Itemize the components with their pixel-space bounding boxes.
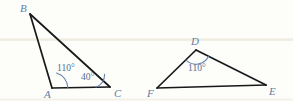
vertex-label-a: A bbox=[43, 88, 51, 100]
geometry-figure: B A C 110° 40° D F E 110° bbox=[0, 0, 293, 101]
vertex-label-d: D bbox=[190, 35, 199, 47]
triangle-def: D F E 110° bbox=[146, 35, 276, 99]
angle-label-d: 110° bbox=[188, 63, 206, 73]
vertex-label-f: F bbox=[146, 87, 154, 99]
angle-arc-a bbox=[57, 73, 68, 88]
triangle-abc: B A C 110° 40° bbox=[20, 2, 122, 100]
figure-canvas: B A C 110° 40° D F E 110° bbox=[0, 0, 293, 101]
angle-label-c: 40° bbox=[81, 72, 95, 82]
side-ac bbox=[52, 87, 110, 88]
vertex-label-e: E bbox=[268, 85, 276, 97]
side-bc bbox=[30, 14, 110, 87]
vertex-label-b: B bbox=[20, 2, 27, 14]
side-de bbox=[196, 50, 266, 85]
angle-label-a: 110° bbox=[57, 63, 75, 73]
vertex-label-c: C bbox=[114, 87, 122, 99]
side-fe bbox=[157, 85, 266, 88]
